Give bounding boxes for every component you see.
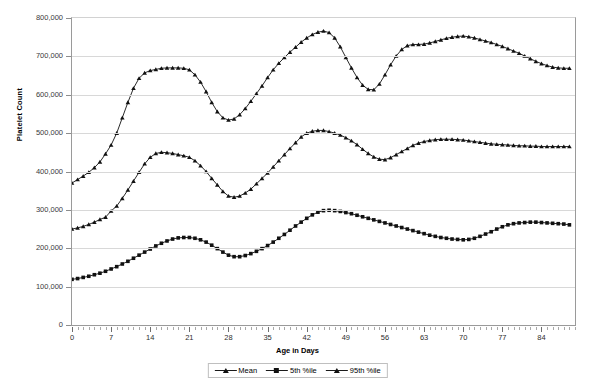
- x-axis-tick-major: [189, 327, 190, 332]
- y-axis-tick: [66, 287, 71, 288]
- data-point-marker: [551, 222, 555, 226]
- data-point-marker: [103, 152, 108, 156]
- x-axis-tick-minor: [452, 327, 453, 330]
- data-point-marker: [121, 262, 125, 266]
- data-point-marker: [160, 241, 164, 245]
- legend-line-swatch: [266, 367, 288, 374]
- data-point-marker: [506, 47, 511, 51]
- data-point-marker: [93, 273, 97, 277]
- x-axis-tick-minor: [212, 327, 213, 330]
- data-point-marker: [243, 254, 247, 258]
- x-axis-tick-minor: [575, 327, 576, 330]
- data-point-marker: [355, 213, 359, 217]
- data-point-marker: [473, 236, 477, 240]
- data-point-marker: [132, 256, 136, 260]
- data-point-marker: [199, 238, 203, 242]
- data-point-marker: [512, 222, 516, 226]
- data-point-marker: [143, 250, 147, 254]
- y-axis-tick-label: 200,000: [0, 243, 63, 252]
- data-point-marker: [344, 211, 348, 215]
- data-point-marker: [383, 221, 387, 225]
- x-axis-tick-major: [150, 327, 151, 332]
- legend-label: Mean: [238, 366, 257, 375]
- data-point-marker: [109, 143, 114, 147]
- y-axis-tick: [66, 18, 71, 19]
- legend-item-mean[interactable]: Mean: [214, 366, 257, 375]
- data-point-marker: [72, 278, 74, 282]
- x-axis-tick-minor: [569, 327, 570, 330]
- data-point-marker: [115, 265, 119, 269]
- data-point-marker: [568, 223, 572, 227]
- legend-marker-icon: [222, 368, 228, 373]
- x-axis-tick-minor: [363, 327, 364, 330]
- y-axis-tick-label: 300,000: [0, 205, 63, 214]
- data-point-marker: [87, 274, 91, 278]
- y-axis-tick: [66, 172, 71, 173]
- x-axis-tick-minor: [486, 327, 487, 330]
- series-line: [72, 31, 569, 183]
- data-point-marker: [545, 221, 549, 225]
- x-axis-tick-minor: [469, 327, 470, 330]
- data-point-marker: [406, 227, 410, 231]
- y-axis-tick-label: 100,000: [0, 282, 63, 291]
- x-axis-tick-minor: [530, 327, 531, 330]
- data-point-marker: [534, 220, 538, 224]
- data-point-marker: [562, 222, 566, 226]
- data-point-marker: [411, 229, 415, 233]
- x-axis-tick-label: 35: [253, 333, 283, 342]
- x-axis-tick-minor: [519, 327, 520, 330]
- legend-item-5th-ile[interactable]: 5th %ile: [266, 366, 317, 375]
- x-axis-tick-minor: [78, 327, 79, 330]
- y-axis-tick: [66, 56, 71, 57]
- gridline: [72, 172, 575, 173]
- data-point-marker: [109, 267, 113, 271]
- gridline: [72, 95, 575, 96]
- x-axis-tick-minor: [558, 327, 559, 330]
- x-axis-tick-minor: [312, 327, 313, 330]
- x-axis-tick-minor: [106, 327, 107, 330]
- data-point-marker: [394, 153, 399, 157]
- data-point-marker: [294, 224, 298, 228]
- legend-label: 5th %ile: [290, 366, 317, 375]
- x-axis-tick-minor: [419, 327, 420, 330]
- data-point-marker: [188, 236, 192, 240]
- data-point-marker: [523, 221, 527, 225]
- data-point-marker: [405, 146, 410, 150]
- data-point-marker: [389, 223, 393, 227]
- x-axis-tick-label: 21: [174, 333, 204, 342]
- data-point-marker: [299, 220, 303, 224]
- data-point-marker: [511, 49, 516, 53]
- x-axis-tick-minor: [273, 327, 274, 330]
- data-point-marker: [142, 71, 147, 75]
- gridline: [72, 287, 575, 288]
- x-axis-tick-minor: [396, 327, 397, 330]
- data-point-marker: [540, 221, 544, 225]
- data-point-marker: [209, 100, 214, 104]
- data-point-marker: [311, 213, 315, 217]
- x-axis-tick-minor: [256, 327, 257, 330]
- data-point-marker: [204, 240, 208, 244]
- data-point-marker: [338, 45, 343, 49]
- x-axis-tick-minor: [480, 327, 481, 330]
- x-axis-tick-label: 84: [526, 333, 556, 342]
- data-point-marker: [182, 236, 186, 240]
- x-axis-tick-minor: [407, 327, 408, 330]
- x-axis-tick-major: [424, 327, 425, 332]
- y-axis-tick-label: 500,000: [0, 128, 63, 137]
- x-axis-tick-major: [111, 327, 112, 332]
- x-axis-tick-label: 56: [370, 333, 400, 342]
- x-axis-tick-minor: [547, 327, 548, 330]
- x-axis-tick-minor: [195, 327, 196, 330]
- legend-item-95th-ile[interactable]: 95th %ile: [326, 366, 381, 375]
- data-point-marker: [126, 188, 131, 192]
- x-axis-tick-minor: [94, 327, 95, 330]
- data-point-marker: [131, 179, 136, 183]
- x-axis-tick-minor: [430, 327, 431, 330]
- x-axis-tick-minor: [217, 327, 218, 330]
- data-point-marker: [517, 221, 521, 225]
- data-point-marker: [288, 228, 292, 232]
- data-point-marker: [221, 250, 225, 254]
- x-axis-tick-minor: [223, 327, 224, 330]
- data-point-marker: [349, 66, 354, 70]
- data-point-marker: [461, 238, 465, 242]
